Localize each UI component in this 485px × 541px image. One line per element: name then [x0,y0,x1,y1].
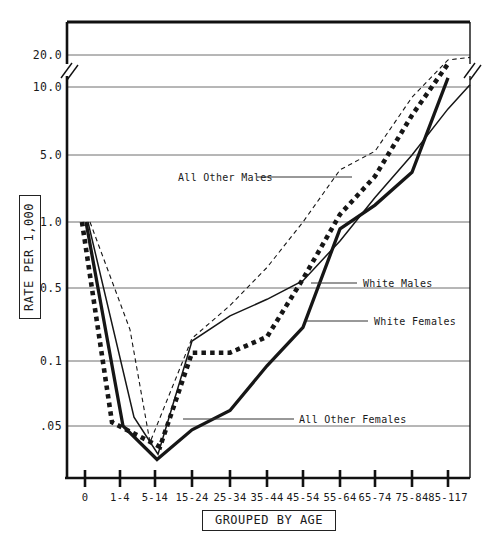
death-rate-chart: 20.010.05.01.00.50.1.0501-45-1415-2425-3… [0,0,485,541]
x-tick-label: 5-14 [142,491,169,503]
x-axis-title: GROUPED BY AGE [202,510,336,531]
x-tick-label: 1-4 [110,491,130,503]
y-tick-label: 0.1 [40,354,62,368]
y-tick-label: .05 [40,419,62,433]
x-tick-label: 35-44 [250,491,283,503]
label-white-males: White Males [363,278,433,289]
x-tick-label: 15-24 [175,491,208,503]
label-all-other-females: All Other Females [299,414,406,425]
y-tick-label: 0.5 [40,281,62,295]
label-all-other-males: All Other Males [178,172,273,183]
y-tick-label: 10.0 [33,80,62,94]
y-axis-title: RATE PER 1,000 [19,195,41,319]
x-tick-label: 0 [82,491,89,503]
chart-svg: 20.010.05.01.00.50.1.0501-45-1415-2425-3… [0,0,485,541]
y-tick-label: 5.0 [40,148,62,162]
x-tick-label: 45-54 [286,491,319,503]
x-tick-label: 75-84 [395,491,428,503]
x-tick-label: 65-74 [358,491,391,503]
label-white-females: White Females [374,316,456,327]
series-line-white-females [86,78,448,460]
series-line-white-males [88,85,470,455]
x-tick-label: 55-64 [323,491,356,503]
series-line-all-other-males [90,57,470,442]
x-tick-label: 85-117 [428,491,468,503]
y-tick-label: 1.0 [40,215,62,229]
x-tick-label: 25-34 [213,491,246,503]
series-line-all-other-females [82,64,448,447]
y-tick-label: 20.0 [33,48,62,62]
